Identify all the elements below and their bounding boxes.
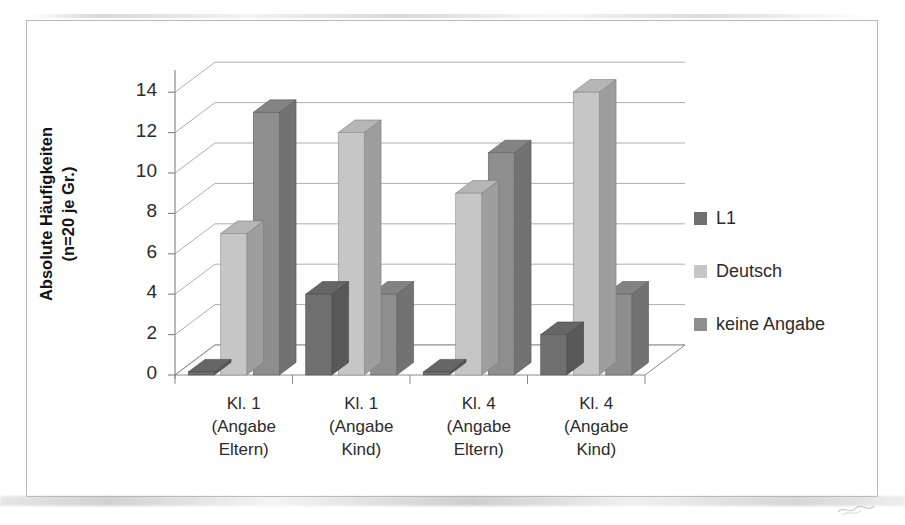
y-axis-tick-label: 0 bbox=[113, 362, 157, 384]
legend-item: L1 bbox=[694, 192, 825, 245]
y-axis-tick-label: 6 bbox=[113, 241, 157, 263]
y-axis-title-line2: (n=20 je Gr.) bbox=[59, 167, 77, 262]
bar bbox=[456, 181, 499, 375]
y-axis-tick-label: 10 bbox=[113, 160, 157, 182]
legend-swatch-icon bbox=[694, 265, 707, 278]
legend-item: Deutsch bbox=[694, 245, 825, 298]
legend-item-label: keine Angabe bbox=[716, 314, 825, 335]
y-axis-tick-label: 4 bbox=[113, 281, 157, 303]
legend-item-label: L1 bbox=[716, 208, 736, 229]
y-axis-title: Absolute Häufigkeiten (n=20 je Gr.) bbox=[35, 84, 79, 344]
legend-item: keine Angabe bbox=[694, 298, 825, 351]
y-axis-tick-label: 14 bbox=[113, 79, 157, 101]
scan-artifact-bottom bbox=[0, 496, 905, 506]
bar bbox=[221, 221, 264, 375]
legend-swatch-icon bbox=[694, 318, 707, 331]
scan-scribble bbox=[836, 499, 882, 517]
chart-legend: L1Deutschkeine Angabe bbox=[694, 192, 825, 351]
y-axis-title-line1: Absolute Häufigkeiten bbox=[37, 127, 55, 301]
legend-item-label: Deutsch bbox=[716, 261, 782, 282]
y-axis-tick-label: 2 bbox=[113, 322, 157, 344]
bar bbox=[541, 322, 584, 375]
bars-layer bbox=[188, 80, 648, 375]
legend-swatch-icon bbox=[694, 212, 707, 225]
bar bbox=[306, 282, 349, 375]
x-axis-tick-label: Kl. 4(AngabeEltern) bbox=[423, 392, 535, 461]
y-axis-tick-label: 8 bbox=[113, 200, 157, 222]
x-axis-tick-label: Kl. 1(AngabeKind) bbox=[305, 392, 417, 461]
x-axis-tick-label: Kl. 4(AngabeKind) bbox=[540, 392, 652, 461]
x-axis-tick-label: Kl. 1(AngabeEltern) bbox=[188, 392, 300, 461]
chart-figure: Absolute Häufigkeiten (n=20 je Gr.) 0246… bbox=[0, 0, 905, 525]
y-axis-tick-label: 12 bbox=[113, 120, 157, 142]
